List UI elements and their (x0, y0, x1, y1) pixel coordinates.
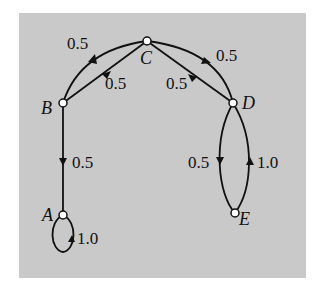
edge-label-a-self: 1.0 (77, 229, 98, 248)
node-c (143, 37, 151, 45)
node-b (59, 99, 67, 107)
node-e (231, 209, 239, 217)
node-label-b: B (41, 98, 52, 118)
edge-label-e-to-d: 1.0 (257, 153, 278, 172)
arrow-icon (216, 157, 224, 165)
edge-label-c-to-b: 0.5 (105, 74, 126, 93)
edge-label-c-to-d: 0.5 (166, 74, 187, 93)
arrow-icon (201, 57, 211, 64)
node-label-e: E (238, 209, 250, 229)
node-a (59, 211, 67, 219)
arrow-icon (246, 157, 254, 165)
edge-label-d-to-e: 0.5 (188, 153, 209, 172)
edge-label-d-to-c: 0.5 (216, 46, 237, 65)
node-label-c: C (140, 48, 153, 68)
edge-label-b-to-a: 0.5 (72, 153, 93, 172)
edge-a-self-loop (52, 215, 73, 252)
node-label-a: A (41, 205, 54, 225)
node-d (229, 99, 237, 107)
arrow-icon (59, 158, 67, 166)
edge-e-to-d (233, 103, 249, 213)
edge-label-b-to-c: 0.5 (67, 34, 88, 53)
markov-chain-diagram: C B D A E 0.5 0.5 0.5 0.5 0.5 1.0 0.5 1.… (0, 0, 318, 288)
node-label-d: D (241, 93, 255, 113)
